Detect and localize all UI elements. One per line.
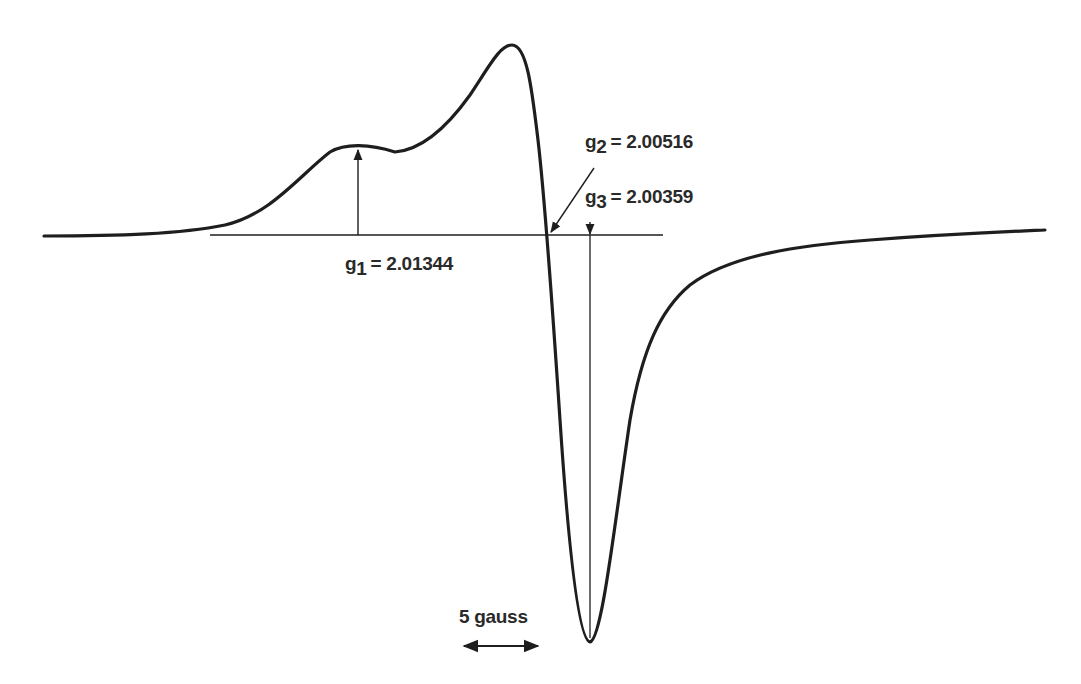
g3-value: = 2.00359: [611, 186, 693, 207]
epr-spectrum-figure: [0, 0, 1081, 684]
g3-symbol: g: [585, 186, 596, 207]
g3-label: g3= 2.00359: [585, 186, 693, 208]
g2-value: = 2.00516: [611, 131, 693, 152]
g2-subscript: 2: [596, 136, 606, 157]
g1-value: = 2.01344: [371, 253, 453, 274]
g1-label: g1= 2.01344: [345, 253, 453, 275]
g3-subscript: 3: [596, 191, 606, 212]
g1-symbol: g: [345, 253, 356, 274]
epr-spectrum-curve: [44, 45, 1045, 642]
g1-subscript: 1: [356, 258, 366, 279]
scale-bar-label: 5 gauss: [459, 606, 528, 628]
g2-label: g2= 2.00516: [585, 131, 693, 153]
g2-symbol: g: [585, 131, 596, 152]
